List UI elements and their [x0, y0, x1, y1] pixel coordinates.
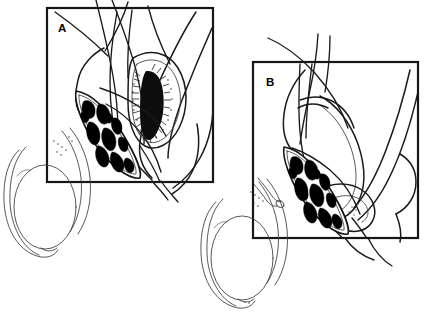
figure-root: A — [0, 0, 424, 313]
panel-a-label: A — [58, 22, 66, 34]
panel-b-label: B — [266, 76, 274, 88]
medical-illustration: A — [0, 0, 424, 313]
